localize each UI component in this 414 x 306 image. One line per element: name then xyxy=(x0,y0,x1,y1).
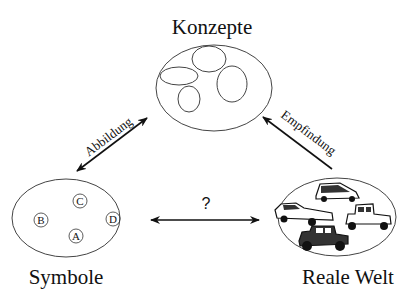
car-hatchback-icon xyxy=(316,183,359,202)
real-world-label: Reale Welt xyxy=(302,265,394,289)
question-label: ? xyxy=(202,195,211,212)
svg-text:A: A xyxy=(72,230,80,242)
car-sedan-icon xyxy=(275,203,333,226)
symbols-node: C B D A Symbole xyxy=(12,179,120,289)
symbol-b: B xyxy=(34,213,48,227)
svg-text:C: C xyxy=(76,195,83,207)
svg-text:B: B xyxy=(37,214,44,226)
abbildung-label: Abbildung xyxy=(82,113,136,159)
symbol-a: A xyxy=(69,229,83,243)
unknown-edge: ? xyxy=(151,195,259,220)
concepts-ellipse xyxy=(156,45,272,131)
concept-blob xyxy=(178,86,200,112)
concept-blob xyxy=(160,67,198,85)
car-jeep-icon xyxy=(299,226,348,251)
abbildung-edge: Abbildung xyxy=(77,113,147,171)
car-vintage-icon xyxy=(346,204,391,230)
symbols-ellipse xyxy=(12,179,120,257)
empfindung-label: Empfindung xyxy=(278,107,339,158)
semiotic-triangle-diagram: Konzepte C B D A Symbole xyxy=(0,0,414,306)
symbol-d: D xyxy=(106,212,120,226)
concept-blob xyxy=(192,46,226,72)
real-world-node: Reale Welt xyxy=(275,178,396,289)
symbol-c: C xyxy=(73,194,87,208)
symbols-label: Symbole xyxy=(29,265,104,289)
svg-text:D: D xyxy=(109,213,117,225)
empfindung-edge: Empfindung xyxy=(263,107,340,169)
concepts-label: Konzepte xyxy=(172,15,252,39)
concept-blob xyxy=(217,66,247,102)
concepts-node: Konzepte xyxy=(156,15,272,131)
